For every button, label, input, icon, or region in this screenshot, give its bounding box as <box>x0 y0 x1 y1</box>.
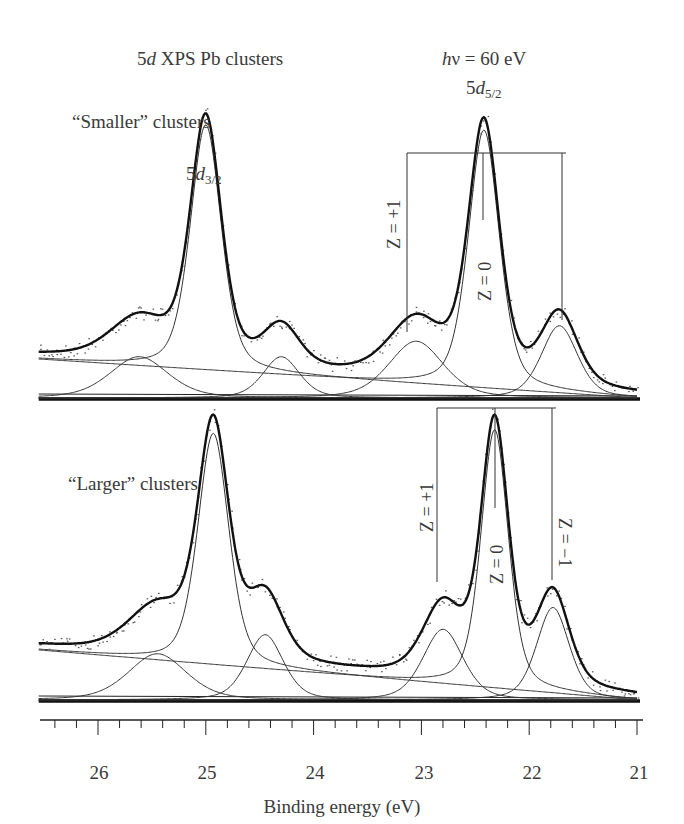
top-panel-data-point <box>511 300 513 301</box>
bottom-panel-data-point <box>54 639 56 640</box>
bottom-panel-data-point <box>608 681 610 682</box>
bottom-panel-data-point <box>634 693 636 694</box>
bottom-panel-data-point <box>140 611 142 612</box>
bottom-panel-data-point <box>78 647 80 648</box>
bottom-panel-data-point <box>110 637 112 638</box>
top-panel-data-point <box>243 335 245 336</box>
bottom-panel-data-point <box>413 640 415 641</box>
bottom-panel-data-point <box>581 658 583 659</box>
top-panel-data-point <box>435 325 437 326</box>
top-panel-data-point <box>605 378 607 379</box>
bottom-panel-data-point <box>109 631 111 632</box>
top-panel-data-point <box>628 391 630 392</box>
bottom-panel-data-point <box>147 598 149 599</box>
bottom-panel-data-point <box>307 659 309 660</box>
top-panel-data-point <box>162 309 164 310</box>
top-panel-data-point <box>70 352 72 353</box>
bottom-panel-data-point <box>317 665 319 666</box>
top-panel-data-point <box>416 307 418 308</box>
top-panel-data-point <box>172 308 174 309</box>
bottom-panel-data-point <box>536 620 538 621</box>
top-panel-data-point <box>325 358 327 359</box>
bottom-panel-data-point <box>42 639 44 640</box>
bottom-panel-data-point <box>158 593 160 594</box>
top-panel-data-point <box>478 150 480 151</box>
bottom-panel-data-point <box>269 595 271 596</box>
bottom-panel-data-point <box>366 660 368 661</box>
bottom-panel-data-point <box>546 587 548 588</box>
top-panel-data-point <box>73 355 75 356</box>
bottom-panel-data-point <box>209 430 211 431</box>
bottom-panel-data-point <box>477 551 479 552</box>
top-panel-data-point <box>304 343 306 344</box>
bottom-panel-data-point <box>448 605 450 606</box>
top-panel-data-point <box>468 230 470 231</box>
top-panel-data-point <box>160 308 162 309</box>
x-axis-title: Binding energy (eV) <box>264 796 421 818</box>
bottom-panel-data-point <box>405 659 407 660</box>
top-panel-data-point <box>145 315 147 316</box>
bottom-panel-data-point <box>451 603 453 604</box>
tick-label-24: 24 <box>306 762 325 784</box>
top-panel-data-point <box>318 362 320 363</box>
bottom-panel-data-point <box>106 641 108 642</box>
top-panel-data-point <box>158 319 160 320</box>
top-panel-data-point <box>525 350 527 351</box>
bottom-panel-data-point <box>85 644 87 645</box>
bottom-panel-data-point <box>123 630 125 631</box>
bottom-panel-data-point <box>46 641 48 642</box>
top-panel-data-point <box>140 307 142 308</box>
bottom-panel-data-point <box>396 664 398 665</box>
bottom-panel-data-point <box>155 597 157 598</box>
bottom-panel-data-point <box>153 602 155 603</box>
bottom-panel-data-point <box>460 599 462 600</box>
top-panel-data-point <box>526 352 528 353</box>
top-z-zero-label: Z = 0 <box>475 262 496 301</box>
bottom-panel-data-point <box>336 670 338 671</box>
bottom-panel-data-point <box>134 622 136 623</box>
bottom-panel-data-point <box>606 690 608 691</box>
top-panel-data-point <box>102 340 104 341</box>
figure-title: 5d XPS Pb clusters <box>137 48 283 70</box>
bottom-panel-label: “Larger” clusters <box>68 473 198 495</box>
bottom-panel-data-point <box>520 600 522 601</box>
top-panel-data-point <box>532 348 534 349</box>
bottom-panel-data-point <box>81 646 83 647</box>
top-panel-data-point <box>430 321 432 322</box>
bottom-panel-data-point <box>530 627 532 628</box>
top-panel-data-point <box>578 337 580 338</box>
bottom-panel-data-point <box>341 670 343 671</box>
bottom-panel-data-point <box>116 632 118 633</box>
top-panel-data-point <box>47 349 49 350</box>
top-panel-data-point <box>79 343 81 344</box>
top-panel-data-point <box>168 314 170 315</box>
bottom-panel-component-4 <box>39 430 637 699</box>
top-panel-data-point <box>95 346 97 347</box>
bottom-panel-data-point <box>315 654 317 655</box>
bottom-panel-data-point <box>399 654 401 655</box>
bottom-z-zero-label: Z = 0 <box>487 545 508 584</box>
bottom-panel-data-point <box>284 618 286 619</box>
bottom-panel-data-point <box>625 693 627 694</box>
top-panel-data-point <box>346 368 348 369</box>
bottom-panel-data-point <box>566 628 568 629</box>
bottom-panel-data-point <box>624 695 626 696</box>
bottom-panel-data-point <box>283 611 285 612</box>
top-panel-data-point <box>553 316 555 317</box>
bottom-panel-data-point <box>521 622 523 623</box>
top-panel-data-point <box>557 314 559 315</box>
top-panel-data-point <box>616 382 618 383</box>
top-panel-data-point <box>64 357 66 358</box>
top-panel-data-point <box>241 335 243 336</box>
bottom-panel-data-point <box>173 602 175 603</box>
top-panel-data-point <box>299 336 301 337</box>
top-panel-data-point <box>560 317 562 318</box>
top-panel-data-point <box>139 307 141 308</box>
bottom-panel-data-point <box>249 594 251 595</box>
top-panel-data-point <box>336 357 338 358</box>
bottom-panel-data-point <box>177 585 179 586</box>
top-panel-data-point <box>352 365 354 366</box>
top-panel-data-point <box>439 320 441 321</box>
bottom-panel-data-point <box>88 649 90 650</box>
bottom-panel-data-point <box>113 636 115 637</box>
